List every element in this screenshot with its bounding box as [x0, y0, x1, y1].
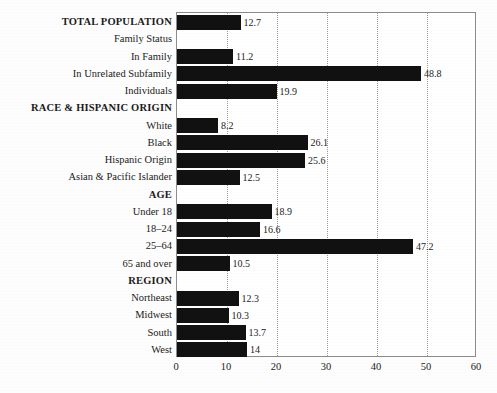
x-axis: 0102030405060: [176, 359, 476, 381]
bar: [177, 204, 272, 219]
x-tick-label: 10: [221, 361, 232, 372]
bar: [177, 170, 240, 185]
x-tick-label: 40: [371, 361, 382, 372]
bar-value-label: 12.3: [242, 294, 260, 304]
bar: [177, 308, 229, 323]
bar-value-label: 12.5: [243, 173, 261, 183]
bar: [177, 84, 277, 99]
bar: [177, 135, 308, 150]
bar-value-label: 12.7: [244, 18, 262, 28]
x-tick-label: 20: [271, 361, 282, 372]
bar: [177, 342, 247, 357]
bar-value-label: 18.9: [275, 207, 293, 217]
bar-value-label: 26.1: [311, 138, 329, 148]
bar-value-label: 47.2: [416, 242, 434, 252]
bar-value-label: 13.7: [249, 328, 267, 338]
bar-value-label: 14: [250, 345, 260, 355]
x-tick-label: 30: [321, 361, 332, 372]
bar-chart: TOTAL POPULATIONFamily StatusIn FamilyIn…: [0, 0, 497, 393]
bar: [177, 66, 421, 81]
bar-value-label: 8.2: [221, 121, 234, 131]
bar: [177, 15, 241, 30]
x-tick-label: 60: [471, 361, 482, 372]
bar-value-label: 16.6: [263, 225, 281, 235]
chart-row: 14: [177, 341, 475, 360]
category-label: West: [0, 340, 172, 359]
bar-value-label: 10.5: [233, 259, 251, 269]
x-tick-label: 50: [421, 361, 432, 372]
bar: [177, 222, 260, 237]
bar-value-label: 10.3: [232, 311, 250, 321]
bar: [177, 325, 246, 340]
bar: [177, 256, 230, 271]
bar: [177, 239, 413, 254]
bar-value-label: 11.2: [236, 52, 253, 62]
x-tick-label: 0: [173, 361, 178, 372]
bar: [177, 291, 239, 306]
bar: [177, 153, 305, 168]
bar: [177, 49, 233, 64]
category-label-column: TOTAL POPULATIONFamily StatusIn FamilyIn…: [0, 12, 172, 357]
bar-value-label: 48.8: [424, 69, 442, 79]
bar: [177, 118, 218, 133]
plot-area: 12.711.248.819.98.226.125.612.518.916.64…: [176, 12, 476, 357]
bar-value-label: 19.9: [280, 87, 298, 97]
bar-value-label: 25.6: [308, 156, 326, 166]
